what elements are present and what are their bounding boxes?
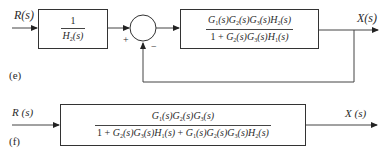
input-label-f: R (s)	[12, 107, 33, 118]
plus-sign: +	[123, 35, 129, 45]
fraction-closed-loop-f: G1(s)G2(s)G3(s) 1 + G2(s)G3(s)H1(s) + G1…	[95, 111, 271, 139]
numerator: G1(s)G2(s)G3(s)H2(s)	[206, 15, 293, 28]
denominator: 1 + G2(s)G3(s)H1(s)	[208, 30, 290, 43]
output-label-f: X (s)	[345, 108, 366, 119]
block-closed-loop-f: G1(s)G2(s)G3(s) 1 + G2(s)G3(s)H1(s) + G1…	[60, 104, 306, 146]
numerator: G1(s)G2(s)G3(s)	[150, 111, 216, 124]
block-inverse-h2: 1 H2(s)	[38, 9, 108, 49]
output-label-e: X(s)	[357, 12, 377, 24]
input-label-e: R(s)	[14, 9, 34, 21]
diagram-tag-e: (e)	[9, 70, 21, 81]
denominator: 1 + G2(s)G3(s)H1(s) + G1(s)G2(s)G3(s)H2(…	[95, 126, 271, 139]
minus-sign: −	[151, 42, 157, 52]
numerator: 1	[68, 16, 77, 29]
fraction-inverse-h2: 1 H2(s)	[61, 16, 86, 43]
fraction-forward-e: G1(s)G2(s)G3(s)H2(s) 1 + G2(s)G3(s)H1(s)	[206, 15, 293, 43]
denominator: H2(s)	[61, 29, 86, 42]
block-forward-e: G1(s)G2(s)G3(s)H2(s) 1 + G2(s)G3(s)H1(s)	[180, 9, 319, 49]
diagram-tag-f: (f)	[9, 136, 20, 147]
